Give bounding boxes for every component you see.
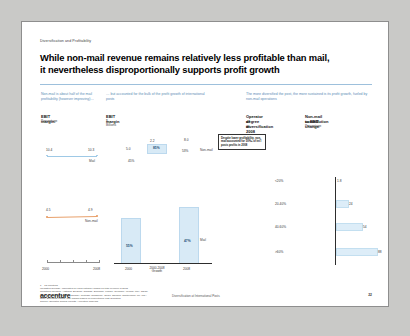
left-chart-subtitle: Percentage bbox=[41, 119, 57, 123]
mid-top-2000: 45% bbox=[128, 159, 134, 163]
mid-total-growth: 2.2 bbox=[150, 139, 154, 143]
right-bar-3 bbox=[336, 248, 378, 256]
right-cat-3: >60% bbox=[275, 250, 283, 254]
slide-eyebrow: Diversification and Profitability bbox=[40, 39, 91, 43]
right-value-0: 1.8 bbox=[337, 179, 341, 183]
left-xtick-2000: 2000 bbox=[42, 267, 49, 271]
mid-top-2008: 53% bbox=[182, 149, 188, 153]
right-cat-2: 40-60% bbox=[275, 225, 286, 229]
nonmail-point-2000 bbox=[46, 216, 48, 218]
bar-2008-label: 47% bbox=[184, 239, 191, 243]
right-cat-1: 20-40% bbox=[275, 202, 286, 206]
title-line-2: it nevertheless disproportionally suppor… bbox=[40, 64, 370, 76]
right-chart-subtitle: Percentage bbox=[305, 124, 321, 128]
right-value-3: 88 bbox=[378, 250, 382, 254]
tick-0 bbox=[47, 260, 48, 263]
mail-series-label: Mail bbox=[89, 159, 95, 163]
lead-text-middle: … but accounted for the bulk of the prof… bbox=[106, 92, 206, 101]
bar-2000-label: 55% bbox=[126, 244, 133, 248]
mid-xtick-2008: 2008 bbox=[183, 267, 190, 271]
tick-2 bbox=[73, 260, 74, 263]
left-xtick-2008: 2008 bbox=[93, 267, 100, 271]
page-number: 22 bbox=[368, 293, 372, 297]
bar-2000 bbox=[121, 218, 141, 264]
right-bar-2 bbox=[336, 223, 363, 231]
nonmail-value-2000: 4.5 bbox=[46, 208, 50, 212]
bar-2008 bbox=[179, 207, 199, 264]
tick-1 bbox=[60, 260, 61, 263]
nonmail-line bbox=[47, 216, 97, 218]
mid-chart-subtitle: $ Billions bbox=[106, 119, 116, 127]
callout-pointer bbox=[235, 150, 241, 155]
footnote-5: Source: Operator annual reports; Accentu… bbox=[40, 300, 340, 303]
right-chart-title-3: in 2008 bbox=[246, 124, 255, 134]
mid-chart-axis bbox=[114, 263, 212, 264]
mail-value-2008: 10.3 bbox=[88, 148, 94, 152]
mid-total-2000: 5.0 bbox=[126, 147, 130, 151]
callout-box: Despite lower profitability, non-mail ac… bbox=[218, 134, 266, 150]
mail-value-2000: 10.4 bbox=[46, 148, 52, 152]
logo-text: accenture bbox=[40, 292, 70, 299]
tick-3 bbox=[86, 260, 87, 263]
page-title: While non-mail revenue remains relativel… bbox=[40, 52, 370, 77]
right-value-2: 54 bbox=[363, 225, 367, 229]
mail-line bbox=[47, 156, 97, 157]
nonmail-series-label: Non-mail bbox=[85, 219, 98, 223]
mid-xtick-2000: 2000 bbox=[125, 267, 132, 271]
right-value-1: 24 bbox=[349, 202, 353, 206]
title-divider bbox=[40, 84, 372, 85]
lead-text-left: Non-mail is about half of the mail profi… bbox=[41, 92, 99, 101]
lead-text-right: The more diversified the post, the more … bbox=[246, 92, 370, 101]
title-line-1: While non-mail revenue remains relativel… bbox=[40, 52, 370, 64]
mid-xtick-growth: 2000-2008 Growth bbox=[144, 267, 170, 274]
accenture-logo: accenture bbox=[40, 292, 70, 299]
slide-page: Diversification and Profitability While … bbox=[21, 21, 389, 307]
mid-total-2008: 8.0 bbox=[184, 138, 188, 142]
mid-legend-mail: Mail bbox=[200, 238, 206, 242]
nonmail-point-2008 bbox=[96, 215, 98, 217]
right-cat-0: <20% bbox=[275, 179, 283, 183]
nonmail-value-2008: 4.9 bbox=[88, 208, 92, 212]
tick-4 bbox=[99, 260, 100, 263]
right-bar-1 bbox=[336, 200, 349, 208]
mid-legend-nonmail: Non-mail bbox=[200, 148, 213, 152]
footer-label: Diversification at International Posts bbox=[172, 294, 220, 298]
bar-growth-label: 85% bbox=[153, 146, 160, 150]
